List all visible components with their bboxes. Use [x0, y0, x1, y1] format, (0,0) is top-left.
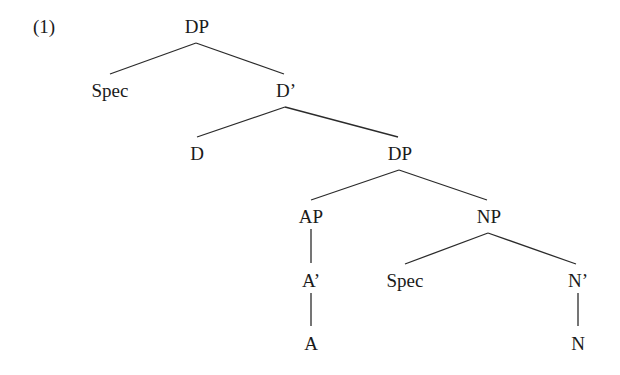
tree-node-ap: AP: [299, 206, 323, 227]
tree-node-abar: A’: [302, 270, 320, 291]
tree-edge-dp1-dbar: [196, 43, 284, 74]
tree-node-dp2: DP: [388, 143, 412, 164]
tree-edge-dp1-spec1: [110, 43, 196, 74]
tree-node-np: NP: [477, 206, 501, 227]
tree-edge-np-spec2: [405, 233, 488, 264]
tree-node-dp1: DP: [185, 16, 209, 37]
tree-node-spec2: Spec: [387, 270, 424, 291]
example-number: (1): [33, 16, 55, 38]
tree-nodes: DPSpecD’DDPAPNPA’ASpecN’N: [92, 16, 589, 354]
tree-node-nbar: N’: [568, 270, 588, 291]
tree-node-dbar: D’: [276, 80, 296, 101]
tree-edge-dp2-ap: [311, 170, 399, 200]
tree-edge-np-nbar: [488, 233, 576, 264]
tree-edge-dbar-d: [197, 107, 285, 137]
tree-node-d: D: [190, 143, 204, 164]
tree-node-spec1: Spec: [92, 80, 129, 101]
tree-edges: [110, 43, 578, 326]
tree-node-a: A: [304, 333, 318, 354]
tree-node-n: N: [571, 333, 585, 354]
tree-edge-dp2-np: [399, 170, 487, 200]
tree-edge-dbar-dp2: [285, 107, 398, 137]
syntax-tree-diagram: (1) DPSpecD’DDPAPNPA’ASpecN’N: [0, 0, 620, 375]
